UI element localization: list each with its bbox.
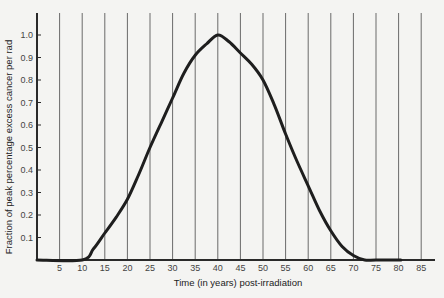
y-axis-title: Fraction of peak percentage excess cance… — [3, 40, 14, 254]
x-tick-label-5: 5 — [57, 263, 62, 273]
x-tick-label-75: 75 — [371, 263, 381, 273]
x-tick-label-25: 25 — [145, 263, 155, 273]
x-tick-label-30: 30 — [168, 263, 178, 273]
x-tick-label-80: 80 — [394, 263, 404, 273]
x-tick-label-85: 85 — [416, 263, 426, 273]
y-tick-label-0.6: 0.6 — [20, 120, 33, 130]
y-tick-label-0.9: 0.9 — [20, 53, 33, 63]
x-tick-label-55: 55 — [281, 263, 291, 273]
x-tick-label-40: 40 — [213, 263, 223, 273]
x-tick-label-35: 35 — [190, 263, 200, 273]
x-axis-title: Time (in years) post-irradiation — [174, 277, 302, 288]
x-tick-label-10: 10 — [77, 263, 87, 273]
x-axis: 510152025303540455055606570758085 — [36, 260, 435, 273]
x-tick-label-70: 70 — [348, 263, 358, 273]
chart: 0.10.20.30.40.50.60.70.80.91.0 510152025… — [0, 0, 444, 298]
y-tick-label-0.1: 0.1 — [20, 233, 33, 243]
x-tick-label-60: 60 — [303, 263, 313, 273]
y-tick-label-0.4: 0.4 — [20, 165, 33, 175]
y-tick-label-0.7: 0.7 — [20, 98, 33, 108]
y-tick-label-1: 1.0 — [20, 30, 33, 40]
x-tick-label-15: 15 — [100, 263, 110, 273]
y-tick-label-0.2: 0.2 — [20, 210, 33, 220]
x-tick-label-50: 50 — [258, 263, 268, 273]
y-axis: 0.10.20.30.40.50.60.70.80.91.0 — [20, 13, 41, 261]
data-series — [37, 35, 401, 261]
chart-canvas: 0.10.20.30.40.50.60.70.80.91.0 510152025… — [0, 0, 444, 298]
y-tick-label-0.3: 0.3 — [20, 188, 33, 198]
y-tick-label-0.8: 0.8 — [20, 75, 33, 85]
x-tick-label-65: 65 — [326, 263, 336, 273]
series-line-0 — [37, 35, 401, 261]
x-tick-label-45: 45 — [235, 263, 245, 273]
y-tick-label-0.5: 0.5 — [20, 143, 33, 153]
x-tick-label-20: 20 — [122, 263, 132, 273]
